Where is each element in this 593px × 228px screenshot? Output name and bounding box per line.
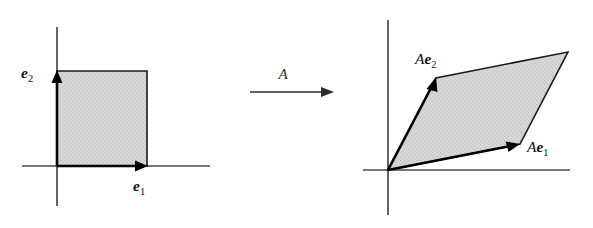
label-ae2-operator: A (414, 50, 425, 67)
label-ae1-subscript: 1 (543, 147, 548, 158)
unit-square-region (57, 71, 147, 166)
label-ae1-operator: A (526, 138, 537, 155)
label-ae2-subscript: 2 (431, 59, 436, 70)
label-operator-a: A (277, 66, 288, 82)
label-e2-subscript: 2 (28, 73, 33, 84)
label-e1-subscript: 1 (140, 186, 145, 197)
figure-canvas: e1 e2 A Ae1 (0, 0, 593, 228)
linear-transformation-figure: e1 e2 A Ae1 (0, 0, 593, 228)
